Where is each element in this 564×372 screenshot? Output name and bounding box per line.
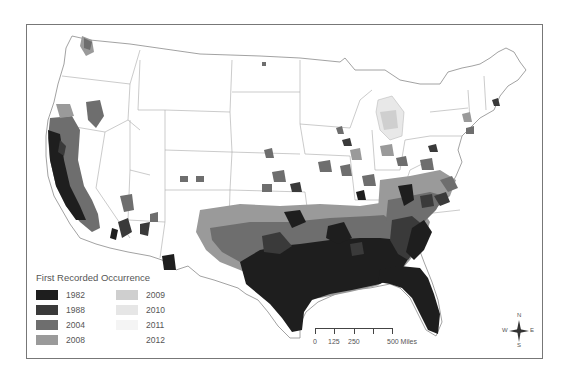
legend-swatch [36,305,58,315]
legend-swatch [36,290,58,300]
legend-item: 2008 [36,334,116,345]
legend-item: 2011 [116,319,196,330]
legend-swatch [116,305,138,315]
scale-bar-line [315,328,393,335]
legend-label: 1988 [66,305,85,315]
legend-swatch [116,320,138,330]
scale-label-0: 0 [313,338,317,345]
scale-tick [334,329,335,334]
compass-n: N [517,312,521,318]
legend-grid: 1982 2009 1988 2010 2004 2011 2008 2012 [36,289,206,345]
legend-swatch [36,320,58,330]
legend-swatch [116,290,138,300]
legend-label: 2010 [146,305,165,315]
scale-label-250: 250 [348,338,360,345]
legend-label: 2009 [146,290,165,300]
compass-e: E [530,327,534,333]
scale-tick [315,329,316,334]
scale-label-500: 500 Miles [387,338,417,345]
compass-rose: N S E W [502,313,536,349]
legend-item: 2004 [36,319,116,330]
scale-tick [392,329,393,334]
legend-label: 1982 [66,290,85,300]
legend-swatch [36,335,58,345]
legend: First Recorded Occurrence 1982 2009 1988… [36,272,206,345]
legend-label: 2011 [146,320,164,330]
legend-item: 2010 [116,304,196,315]
scale-tick [373,329,374,334]
compass-s: S [517,342,521,348]
legend-item: 1982 [36,289,116,300]
legend-item: 2009 [116,289,196,300]
scale-label-125: 125 [328,338,340,345]
scale-bar: 0 125 250 500 Miles [305,326,455,350]
legend-item: 2012 [116,334,196,345]
scale-tick [354,329,355,334]
legend-item: 1988 [36,304,116,315]
legend-label: 2008 [66,335,85,345]
compass-w: W [502,327,508,333]
legend-label: 2004 [66,320,85,330]
legend-title: First Recorded Occurrence [36,272,206,283]
legend-label: 2012 [146,335,165,345]
legend-swatch [116,335,138,345]
